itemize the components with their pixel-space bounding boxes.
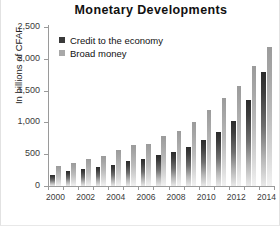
bar-credit-2000 [50,175,55,186]
legend-item-credit: Credit to the economy [59,34,163,46]
x-axis-tick-mark [93,186,94,190]
bar-broad-money-2012 [237,86,242,186]
y-axis-tick-label: 0 [35,180,40,190]
x-axis-tick-mark [184,186,185,190]
monetary-developments-chart: Monetary Developments In billions of CFA… [0,0,280,226]
x-axis-tick-mark [259,186,260,190]
bar-broad-money-2007 [161,136,166,186]
x-axis-tick-label: 2010 [191,192,221,202]
x-axis-tick-mark [48,186,49,190]
bar-credit-2003 [96,167,101,186]
bar-broad-money-2011 [222,98,227,186]
x-axis-tick-mark [63,186,64,190]
bar-credit-2014 [261,72,266,186]
bar-broad-money-2000 [56,166,61,186]
x-axis-tick-mark [229,186,230,190]
bar-credit-2008 [171,152,176,186]
bar-credit-2004 [111,165,116,186]
bar-broad-money-2004 [116,150,121,186]
bar-credit-2001 [66,171,71,186]
x-axis-tick-mark [108,186,109,190]
bar-credit-2007 [156,155,161,186]
x-axis-tick-mark [214,186,215,190]
credit-swatch-icon [59,37,65,43]
x-axis-tick-mark [123,186,124,190]
chart-title: Monetary Developments [1,3,279,17]
x-axis-tick-label: 2014 [251,192,280,202]
y-axis-tick-label: 500 [25,148,40,158]
bar-credit-2006 [141,159,146,186]
bar-credit-2013 [246,100,251,186]
bar-credit-2012 [231,121,236,186]
y-axis-tick-label: 1,000 [17,116,40,126]
bar-broad-money-2003 [101,156,106,186]
x-axis-tick-mark [169,186,170,190]
bar-credit-2002 [81,169,86,186]
x-axis-tick-label: 2006 [131,192,161,202]
bar-credit-2009 [186,147,191,186]
x-axis-tick-mark [138,186,139,190]
legend-label-broad-money: Broad money [70,48,127,59]
legend-label-credit: Credit to the economy [70,35,163,46]
x-axis-tick-label: 2004 [101,192,131,202]
y-axis-tick-label: 2,000 [17,53,40,63]
x-axis-tick-mark [153,186,154,190]
y-axis-tick-label: 2,500 [17,21,40,31]
y-axis-tick-label: 1,500 [17,85,40,95]
bar-broad-money-2014 [267,47,272,186]
bar-credit-2005 [126,161,131,186]
bar-broad-money-2002 [86,159,91,186]
legend-item-broad-money: Broad money [59,47,163,59]
x-axis-tick-mark [78,186,79,190]
bar-broad-money-2009 [192,122,197,186]
broad-money-swatch-icon [59,50,65,56]
bar-broad-money-2013 [252,66,257,186]
x-axis-tick-label: 2012 [221,192,251,202]
bar-credit-2010 [201,140,206,186]
x-axis-tick-label: 2000 [41,192,71,202]
x-axis-line [48,186,275,187]
bar-broad-money-2008 [177,131,182,186]
x-axis-tick-label: 2008 [161,192,191,202]
x-axis-tick-mark [274,186,275,190]
bar-broad-money-2005 [131,145,136,186]
bar-broad-money-2010 [207,110,212,186]
bar-broad-money-2001 [71,163,76,186]
bar-broad-money-2006 [146,144,151,186]
chart-legend: Credit to the economy Broad money [59,34,163,60]
x-axis-tick-mark [199,186,200,190]
x-axis-tick-label: 2002 [71,192,101,202]
x-axis-tick-mark [244,186,245,190]
bar-credit-2011 [216,132,221,186]
